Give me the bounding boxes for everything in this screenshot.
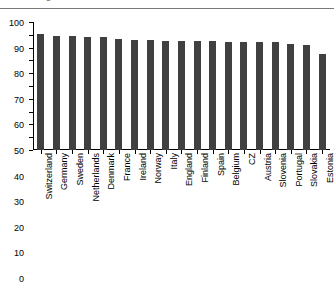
bar bbox=[319, 54, 326, 150]
x-label-cell: Germany bbox=[49, 153, 65, 223]
bar-cell bbox=[205, 22, 221, 150]
bar bbox=[115, 39, 122, 150]
chart-title-clipped: diagnosed level 1 bbox=[0, 0, 334, 4]
x-label-cell: CZ bbox=[236, 153, 252, 223]
chart-title-text: diagnosed level 1 bbox=[34, 0, 104, 1]
bar-cell bbox=[64, 22, 80, 150]
bar bbox=[194, 41, 201, 150]
bar bbox=[147, 40, 154, 150]
bar-cell bbox=[299, 22, 315, 150]
bar-cell bbox=[33, 22, 49, 150]
bar bbox=[53, 36, 60, 150]
y-axis-tick-label: 100 bbox=[9, 19, 24, 28]
x-label-cell: Switzerland bbox=[33, 153, 49, 223]
bar bbox=[162, 41, 169, 150]
y-axis-tick-label: 0 bbox=[19, 275, 24, 284]
x-label-cell: Italy bbox=[158, 153, 174, 223]
bar bbox=[272, 42, 279, 150]
y-axis-tick: 0 bbox=[29, 150, 33, 151]
x-axis-labels: SwitzerlandGermanySwedenNetherlandsDenma… bbox=[33, 153, 330, 223]
x-label-cell: Slovenia bbox=[267, 153, 283, 223]
y-axis-tick-label: 70 bbox=[14, 95, 24, 104]
x-label-cell: Slovakia bbox=[299, 153, 315, 223]
bar-series bbox=[33, 22, 330, 150]
bar-cell bbox=[80, 22, 96, 150]
header-divider bbox=[0, 8, 334, 9]
bar bbox=[131, 40, 138, 150]
bar bbox=[240, 42, 247, 150]
bar-cell bbox=[236, 22, 252, 150]
bar bbox=[287, 44, 294, 150]
bar-cell bbox=[314, 22, 330, 150]
x-label-cell: Belgium bbox=[221, 153, 237, 223]
bar bbox=[303, 45, 310, 150]
x-label-cell: France bbox=[111, 153, 127, 223]
bar-cell bbox=[267, 22, 283, 150]
bar-cell bbox=[174, 22, 190, 150]
bar bbox=[100, 37, 107, 150]
bar bbox=[209, 41, 216, 150]
bar bbox=[225, 42, 232, 150]
bar-cell bbox=[158, 22, 174, 150]
bar-cell bbox=[49, 22, 65, 150]
bar bbox=[37, 34, 44, 150]
x-label-cell: Portugal bbox=[283, 153, 299, 223]
bar-cell bbox=[142, 22, 158, 150]
bar-cell bbox=[96, 22, 112, 150]
x-label-cell: England bbox=[174, 153, 190, 223]
x-label-cell: Netherlands bbox=[80, 153, 96, 223]
x-label-cell: Finland bbox=[189, 153, 205, 223]
x-label-cell: Spain bbox=[205, 153, 221, 223]
x-label-cell: Sweden bbox=[64, 153, 80, 223]
y-axis-tick-label: 10 bbox=[14, 249, 24, 258]
plot-area: 0102030405060708090100 bbox=[33, 22, 330, 150]
bar-cell bbox=[221, 22, 237, 150]
y-axis-tick-label: 40 bbox=[14, 172, 24, 181]
x-label-cell: Estonia bbox=[314, 153, 330, 223]
x-axis-category-label: Estonia bbox=[326, 153, 334, 183]
y-axis-tick-label: 90 bbox=[14, 44, 24, 53]
y-axis-tick-label: 80 bbox=[14, 70, 24, 79]
y-axis-tick-label: 60 bbox=[14, 121, 24, 130]
bar bbox=[256, 42, 263, 150]
bar-cell bbox=[111, 22, 127, 150]
bar bbox=[178, 41, 185, 150]
bar-cell bbox=[252, 22, 268, 150]
bar bbox=[69, 36, 76, 150]
x-label-cell: Denmark bbox=[96, 153, 112, 223]
bar-cell bbox=[283, 22, 299, 150]
bar-cell bbox=[127, 22, 143, 150]
y-axis-tick-label: 50 bbox=[14, 147, 24, 156]
x-label-cell: Norway bbox=[142, 153, 158, 223]
y-axis-tick-label: 20 bbox=[14, 223, 24, 232]
x-label-cell: Ireland bbox=[127, 153, 143, 223]
y-axis-tick-label: 30 bbox=[14, 198, 24, 207]
x-label-cell: Austria bbox=[252, 153, 268, 223]
bar bbox=[84, 37, 91, 150]
bar-cell bbox=[189, 22, 205, 150]
